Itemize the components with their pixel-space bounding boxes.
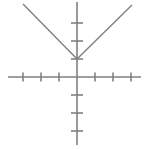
- graph-ray-left: [23, 4, 77, 59]
- graph-ray-right: [77, 5, 132, 59]
- coordinate-graph-figure: [0, 0, 148, 149]
- graph-canvas: [0, 0, 148, 149]
